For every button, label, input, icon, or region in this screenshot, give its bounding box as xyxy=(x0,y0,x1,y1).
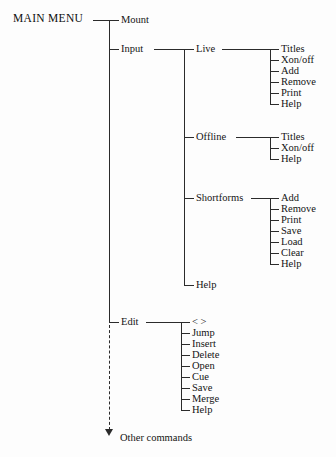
leaf-shortforms-help: Help xyxy=(281,258,301,269)
connector-offline-leaf-0 xyxy=(270,137,279,138)
connector-edit-leaf-5 xyxy=(181,377,190,378)
trunk-live-leaves xyxy=(270,49,271,104)
dashed-continuation-line xyxy=(109,325,110,430)
connector-live-leaf-4 xyxy=(270,93,279,94)
connector-shortforms-leaf-2 xyxy=(270,220,279,221)
node-other-commands: Other commands xyxy=(120,432,192,443)
connector-offline-leaf-1 xyxy=(270,148,279,149)
connector-shortforms-leaf-6 xyxy=(270,264,279,265)
connector-edit-leaf-4 xyxy=(181,366,190,367)
connector-edit-leaf-1 xyxy=(181,333,190,334)
connector-edit-leaf-0 xyxy=(181,322,190,323)
connector-shortforms-leaf-0 xyxy=(270,198,279,199)
connector-edit-to-leaftrunk xyxy=(146,322,181,323)
leaf-shortforms-remove: Remove xyxy=(281,203,316,214)
down-arrow-icon xyxy=(105,429,113,436)
trunk-main-menu xyxy=(109,20,110,322)
leaf-edit-jump: Jump xyxy=(192,327,215,338)
connector-root-to-trunk xyxy=(93,20,109,21)
connector-live-leaf-1 xyxy=(270,60,279,61)
node-input: Input xyxy=(121,43,143,54)
tree-diagram-canvas: MAIN MENU Mount Input Live Titles Xon/of… xyxy=(0,0,336,457)
connector-live-leaf-2 xyxy=(270,71,279,72)
leaf-offline-xonoff: Xon/off xyxy=(281,142,314,153)
connector-shortforms-leaf-3 xyxy=(270,231,279,232)
leaf-shortforms-clear: Clear xyxy=(281,247,304,258)
connector-shortforms-leaf-1 xyxy=(270,209,279,210)
leaf-shortforms-add: Add xyxy=(281,192,299,203)
leaf-live-titles: Titles xyxy=(281,43,305,54)
connector-shortforms-to-leaftrunk xyxy=(251,198,270,199)
connector-live xyxy=(184,49,194,50)
connector-shortforms xyxy=(184,198,194,199)
leaf-shortforms-print: Print xyxy=(281,214,301,225)
connector-edit-leaf-7 xyxy=(181,399,190,400)
node-offline: Offline xyxy=(196,131,226,142)
leaf-shortforms-save: Save xyxy=(281,225,301,236)
connector-live-leaf-5 xyxy=(270,104,279,105)
leaf-live-add: Add xyxy=(281,65,299,76)
connector-input xyxy=(109,49,119,50)
node-mount: Mount xyxy=(121,14,149,25)
connector-offline-leaf-2 xyxy=(270,159,279,160)
leaf-edit-help: Help xyxy=(192,404,212,415)
connector-shortforms-leaf-5 xyxy=(270,253,279,254)
leaf-live-help: Help xyxy=(281,98,301,109)
trunk-input-children xyxy=(184,49,185,285)
leaf-edit-delete: Delete xyxy=(192,349,219,360)
connector-edit-leaf-8 xyxy=(181,410,190,411)
leaf-edit-merge: Merge xyxy=(192,393,219,404)
leaf-offline-titles: Titles xyxy=(281,131,305,142)
connector-offline xyxy=(184,137,194,138)
connector-shortforms-leaf-4 xyxy=(270,242,279,243)
connector-edit-leaf-6 xyxy=(181,388,190,389)
connector-live-leaf-0 xyxy=(270,49,279,50)
leaf-edit-open: Open xyxy=(192,360,215,371)
connector-edit-leaf-2 xyxy=(181,344,190,345)
leaf-edit-save: Save xyxy=(192,382,212,393)
node-live: Live xyxy=(196,43,215,54)
connector-edit-leaf-3 xyxy=(181,355,190,356)
connector-input-to-subtrunk xyxy=(154,49,184,50)
connector-input-help xyxy=(184,285,194,286)
leaf-edit-insert: Insert xyxy=(192,338,216,349)
connector-live-to-leaftrunk xyxy=(222,49,270,50)
connector-offline-to-leaftrunk xyxy=(236,137,270,138)
connector-mount xyxy=(109,20,119,21)
leaf-live-print: Print xyxy=(281,87,301,98)
leaf-edit-cue: Cue xyxy=(192,371,209,382)
leaf-offline-help: Help xyxy=(281,153,301,164)
node-edit: Edit xyxy=(121,316,139,327)
root-node-main-menu: MAIN MENU xyxy=(13,12,83,24)
leaf-live-xonoff: Xon/off xyxy=(281,54,314,65)
node-input-help: Help xyxy=(196,279,216,290)
leaf-edit-angle-brackets: < > xyxy=(192,316,206,327)
leaf-shortforms-load: Load xyxy=(281,236,303,247)
node-shortforms: Shortforms xyxy=(196,192,243,203)
connector-live-leaf-3 xyxy=(270,82,279,83)
leaf-live-remove: Remove xyxy=(281,76,316,87)
connector-edit xyxy=(109,322,119,323)
